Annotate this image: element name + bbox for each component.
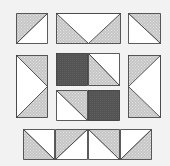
center-hst-top	[89, 54, 120, 86]
bottom-hst-1	[24, 130, 55, 160]
bottom-hst-3	[89, 130, 120, 160]
top-left-hst	[17, 14, 48, 44]
center-dark-square-bottom	[89, 91, 120, 121]
center-dark-square-top	[57, 54, 88, 86]
right-middle-flying-goose	[129, 56, 161, 118]
center-hst-bottom	[57, 91, 88, 121]
bottom-hst-2	[56, 130, 88, 160]
top-middle-flying-goose	[57, 14, 121, 44]
quilt-diagram	[0, 0, 170, 166]
top-right-hst	[129, 14, 161, 44]
left-middle-flying-goose	[17, 56, 48, 118]
bottom-hst-4	[121, 130, 152, 160]
